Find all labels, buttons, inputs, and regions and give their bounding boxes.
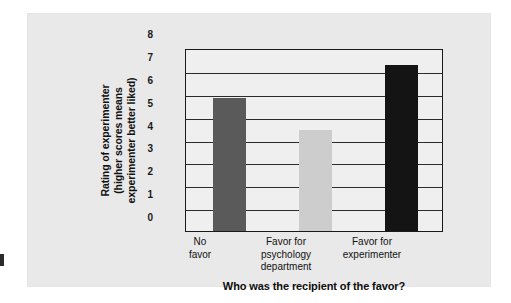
x-axis-category-label-line: Favor for xyxy=(322,236,422,249)
x-axis-category-label-line: favor xyxy=(150,249,250,262)
y-axis-tick-label: 4 xyxy=(131,122,153,132)
x-axis-category-label: Nofavor xyxy=(150,236,250,261)
y-axis-tick-label: 6 xyxy=(131,76,153,86)
y-axis-title-line-3: experimenter better liked) xyxy=(125,78,138,204)
y-axis-tick-label: 8 xyxy=(131,30,153,40)
x-axis-category-label-line: Favor for xyxy=(236,236,336,249)
x-axis-category-label-line: No xyxy=(150,236,250,249)
x-axis-title: Who was the recipient of the favor? xyxy=(185,280,443,292)
y-axis-tick-label: 0 xyxy=(131,213,153,223)
y-axis-title-line-1: Rating of experimenter xyxy=(99,78,112,204)
y-axis-tick-label: 3 xyxy=(131,144,153,154)
x-axis-category-label-line: psychology xyxy=(236,249,336,262)
bar xyxy=(299,130,332,231)
page-edge-artifact xyxy=(0,254,4,266)
x-axis-category-label: Favor forexperimenter xyxy=(322,236,422,261)
figure-container: Rating of experimenter (higher scores me… xyxy=(0,0,511,303)
y-axis-title-line-2: (higher scores means xyxy=(112,78,125,204)
y-axis-tick-label: 5 xyxy=(131,99,153,109)
y-axis-tick-label: 1 xyxy=(131,190,153,200)
y-axis-tick-label: 7 xyxy=(131,53,153,63)
plot-area xyxy=(185,49,443,232)
bar xyxy=(385,65,418,231)
x-axis-category-label-line: experimenter xyxy=(322,249,422,262)
y-axis-tick-label: 2 xyxy=(131,167,153,177)
chart-panel: Rating of experimenter (higher scores me… xyxy=(28,14,490,286)
x-axis-category-label-line: department xyxy=(236,261,336,274)
x-axis-category-label: Favor forpsychologydepartment xyxy=(236,236,336,274)
bar xyxy=(213,98,246,231)
